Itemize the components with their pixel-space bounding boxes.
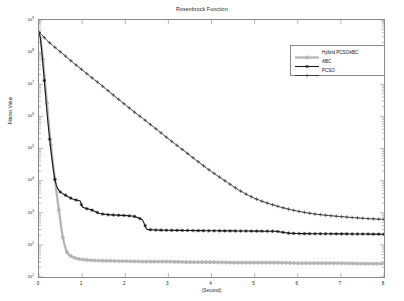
x-tick-label: 6	[290, 281, 304, 286]
y-tick-label: 108	[0, 48, 34, 54]
legend-label: PCSO	[322, 68, 335, 73]
y-tick-label: 101	[0, 273, 34, 279]
y-tick-label: 103	[0, 209, 34, 215]
x-tick-label: 8	[376, 281, 390, 286]
legend-marker-icon	[294, 48, 320, 57]
x-tick-label: 0	[31, 281, 45, 286]
x-tick-label: 4	[204, 281, 218, 286]
y-tick-label: 109	[0, 16, 34, 22]
legend-item-hybrid-pcsoabc[interactable]: Hybrid PCSOABC	[291, 48, 384, 57]
y-axis-label: Fitness Value	[8, 81, 13, 141]
x-tick-label: 1	[74, 281, 88, 286]
x-axis-label: (Second)	[38, 288, 385, 293]
legend-label: Hybrid PCSOABC	[322, 50, 358, 55]
y-tick-label: 104	[0, 176, 34, 182]
legend-item-pcso[interactable]: PCSO	[291, 66, 384, 75]
y-tick-label: 102	[0, 241, 34, 247]
x-tick-label: 5	[247, 281, 261, 286]
legend-marker-icon	[294, 57, 320, 66]
legend-label: ABC	[322, 59, 331, 64]
legend-marker-icon	[294, 66, 320, 75]
x-tick-label: 3	[160, 281, 174, 286]
x-tick-label: 2	[117, 281, 131, 286]
y-tick-label: 105	[0, 144, 34, 150]
y-tick-label: 106	[0, 112, 34, 118]
matlab-figure: Rosenbrock Function Fitness Value (Secon…	[0, 0, 404, 301]
legend-item-abc[interactable]: ABC	[291, 57, 384, 66]
y-tick-label: 107	[0, 80, 34, 86]
chart-legend: Hybrid PCSOABCABCPCSO	[290, 45, 385, 76]
x-tick-label: 7	[333, 281, 347, 286]
chart-title: Rosenbrock Function	[0, 6, 404, 12]
